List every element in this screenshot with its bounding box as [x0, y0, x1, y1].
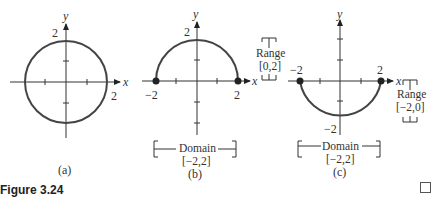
panel-c: y −2 x −2 2 Domain [−2,2] (c) Range [−2,… — [288, 7, 426, 179]
panel-label: (b) — [188, 167, 202, 181]
range-label: Range — [256, 47, 285, 60]
endpoint-right — [235, 78, 242, 85]
y-axis-label: y — [62, 9, 69, 23]
x-tick-left: −2 — [145, 88, 158, 102]
endpoint-right — [378, 78, 385, 85]
panel-label: (a) — [58, 163, 71, 177]
x-axis-label: x — [395, 74, 402, 88]
y-tick-label: 2 — [184, 25, 190, 39]
endpoint-left — [297, 78, 304, 85]
x-tick-left: −2 — [290, 63, 303, 77]
figure-caption: Figure 3.24 — [0, 183, 63, 197]
panel-b: y 2 x −2 2 Domain [−2,2] (b) Range [0,2] — [142, 7, 285, 181]
range-value: [−2,0] — [396, 101, 425, 114]
domain-label: Domain — [322, 140, 359, 152]
x-tick-right: 2 — [234, 88, 240, 102]
x-tick-label: 2 — [111, 89, 117, 103]
y-axis-label: y — [192, 7, 199, 21]
endpoint-left — [153, 78, 160, 85]
end-of-proof-icon — [420, 182, 431, 193]
panel-a: y 2 x 2 (a) — [10, 9, 129, 177]
y-axis-label: y — [336, 7, 343, 21]
figure-canvas: y 2 x 2 (a) y 2 x −2 2 Domain [−2,2] (b)… — [0, 0, 433, 198]
x-tick-right: 2 — [377, 63, 383, 77]
y-tick-label: 2 — [52, 26, 58, 40]
x-axis-label: x — [122, 75, 129, 89]
range-value: [0,2] — [259, 60, 281, 73]
domain-label: Domain — [179, 142, 216, 154]
range-label: Range — [397, 88, 426, 101]
y-tick-label: −2 — [324, 122, 337, 136]
x-axis-label: x — [251, 74, 258, 88]
panel-label: (c) — [333, 165, 346, 179]
